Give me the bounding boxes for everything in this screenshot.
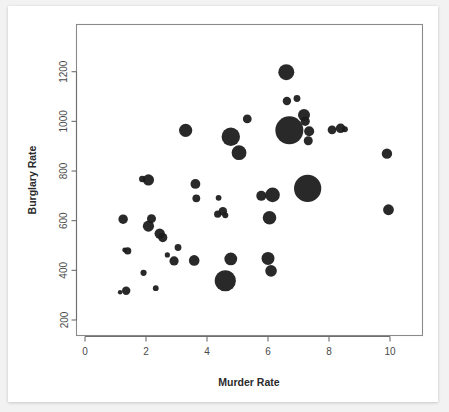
x-tick-label-2: 2 (143, 346, 149, 357)
screenshot-canvas: 20040060080010001200 Burglary Rate 02468… (0, 0, 449, 412)
x-axis-tick-labels: 0246810 (82, 346, 396, 357)
data-point (232, 145, 247, 160)
data-point (262, 252, 275, 265)
data-point (342, 126, 348, 132)
data-point (124, 247, 131, 254)
y-tick-label-1000: 1000 (59, 110, 70, 133)
y-tick-label-800: 800 (59, 162, 70, 179)
data-point (122, 287, 130, 295)
data-point (169, 256, 178, 265)
data-point (382, 148, 392, 158)
y-axis: 20040060080010001200 Burglary Rate (26, 60, 77, 328)
data-point (192, 194, 200, 202)
y-tick-label-600: 600 (59, 212, 70, 229)
data-point (256, 191, 266, 201)
y-tick-label-1200: 1200 (59, 60, 70, 83)
data-point (216, 195, 222, 201)
data-point (294, 95, 301, 102)
y-axis-title: Burglary Rate (26, 145, 38, 214)
x-tick-label-0: 0 (82, 346, 88, 357)
data-point (140, 270, 146, 276)
data-point (265, 265, 277, 277)
data-point (143, 174, 154, 185)
data-point (191, 179, 201, 189)
data-point (383, 204, 394, 215)
data-point (222, 212, 228, 218)
data-point (294, 175, 321, 202)
scatter-plot-svg: 20040060080010001200 Burglary Rate 02468… (0, 0, 449, 412)
x-axis-ticks (85, 337, 390, 342)
data-point (278, 64, 294, 80)
x-axis-title: Murder Rate (218, 376, 279, 388)
data-point (243, 114, 252, 123)
x-tick-label-6: 6 (265, 346, 271, 357)
data-point (283, 97, 291, 105)
x-tick-label-8: 8 (326, 346, 332, 357)
data-point (328, 125, 337, 134)
data-point (215, 270, 236, 291)
data-point (224, 253, 237, 266)
y-axis-ticks (72, 72, 77, 320)
bubble-chart: 20040060080010001200 Burglary Rate 02468… (0, 0, 449, 412)
x-tick-label-4: 4 (204, 346, 210, 357)
data-point (179, 124, 192, 137)
y-tick-label-200: 200 (59, 311, 70, 328)
data-point (118, 214, 127, 223)
data-point (222, 128, 240, 146)
data-point (301, 117, 310, 126)
y-tick-label-400: 400 (59, 262, 70, 279)
data-point (147, 214, 156, 223)
data-point (153, 285, 159, 291)
data-point (175, 244, 182, 251)
data-point (118, 290, 122, 294)
data-point (263, 211, 277, 225)
data-point (265, 188, 280, 203)
data-point (304, 136, 313, 145)
data-point (158, 233, 167, 242)
y-axis-tick-labels: 20040060080010001200 (59, 60, 70, 328)
data-points-layer (118, 64, 394, 295)
x-axis: 0246810 Murder Rate (82, 337, 396, 389)
data-point (304, 126, 314, 136)
data-point (275, 116, 303, 144)
x-tick-label-10: 10 (384, 346, 396, 357)
data-point (189, 255, 200, 266)
data-point (165, 252, 170, 257)
